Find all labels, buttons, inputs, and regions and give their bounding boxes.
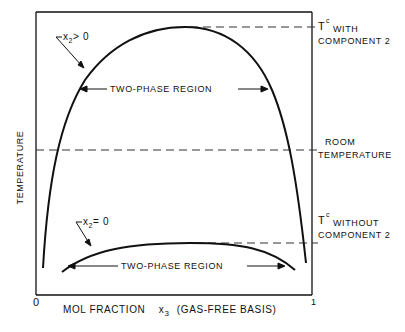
tc-without-T: T (318, 215, 325, 226)
plot-frame (36, 12, 312, 295)
upper-two-phase-region-label: TWO-PHASE REGION (110, 84, 212, 95)
phase-diagram-canvas (0, 0, 405, 332)
lower-two-phase-region-label: TWO-PHASE REGION (121, 261, 223, 272)
tc-without-sup: c (326, 211, 330, 218)
room-line1: ROOM (325, 137, 355, 148)
x-tick-0: 0 (33, 297, 40, 308)
y-axis-label: TEMPERATURE (15, 128, 26, 208)
lower-curve-rel: = 0 (93, 216, 109, 227)
reference-lines (36, 27, 318, 243)
upper-curve-label: x2> 0 (63, 31, 89, 46)
tc-with-sup: c (326, 17, 330, 24)
tc-with-T: T (318, 21, 325, 32)
x-axis-variable-sub: 3 (164, 309, 169, 318)
upper-curve-rel: > 0 (73, 31, 89, 42)
lower-curve-label: x2= 0 (83, 216, 109, 231)
room-line2: TEMPERATURE (318, 150, 392, 161)
tc-with-line2: COMPONENT 2 (318, 36, 390, 47)
tc-without-line2: COMPONENT 2 (318, 230, 390, 241)
x-tick-1: 1 (311, 297, 317, 308)
x-axis-suffix: (GAS-FREE BASIS) (177, 304, 277, 315)
x-axis-label-text: MOL FRACTION (63, 304, 145, 315)
tc-without-line1: WITHOUT (333, 218, 379, 229)
x-axis-label: MOL FRACTION x3 (GAS-FREE BASIS) (63, 304, 276, 319)
curve-label-pointers (56, 37, 91, 246)
tc-with-line1: WITH (333, 24, 358, 35)
